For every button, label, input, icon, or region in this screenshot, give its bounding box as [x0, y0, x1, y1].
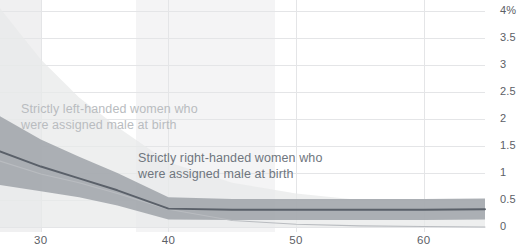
- annotation-left-handed-line2: were assigned male at birth: [21, 117, 198, 133]
- y-axis-tick-label: 1.5: [500, 139, 516, 151]
- y-axis-tick-label: 3.5: [500, 31, 516, 43]
- x-axis-tick-label: 50: [289, 234, 303, 246]
- y-axis-tick-label: 2: [500, 112, 506, 124]
- y-axis-tick-label: 2.5: [500, 85, 516, 97]
- x-axis-tick-label: 60: [417, 234, 431, 246]
- x-axis-tick-label: 30: [34, 234, 48, 246]
- y-axis-tick-label: 1: [500, 166, 506, 178]
- annotation-left-handed: Strictly left-handed women who were assi…: [21, 101, 198, 133]
- y-axis-tick-label: 0.5: [500, 193, 516, 205]
- y-axis-tick-label: 3: [500, 58, 506, 70]
- y-axis-tick-label: 0: [500, 220, 506, 232]
- annotation-right-handed-line1: Strictly right-handed women who: [138, 150, 322, 166]
- x-axis-tick-label: 40: [162, 234, 176, 246]
- chart-container: 4%3.532.521.510.50 30405060 Strictly lef…: [0, 0, 530, 250]
- annotation-left-handed-line1: Strictly left-handed women who: [21, 101, 198, 117]
- annotation-right-handed: Strictly right-handed women who were ass…: [138, 150, 322, 182]
- annotation-right-handed-line2: were assigned male at birth: [138, 166, 322, 182]
- y-axis-tick-label: 4%: [500, 4, 516, 16]
